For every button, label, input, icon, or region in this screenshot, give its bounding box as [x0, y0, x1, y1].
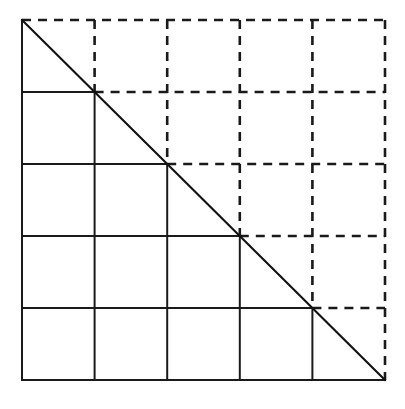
diagonal-layer — [22, 20, 385, 380]
figure-container — [0, 0, 405, 409]
grid-diagonal-figure — [0, 0, 405, 409]
anti-diagonal-line — [22, 20, 385, 380]
